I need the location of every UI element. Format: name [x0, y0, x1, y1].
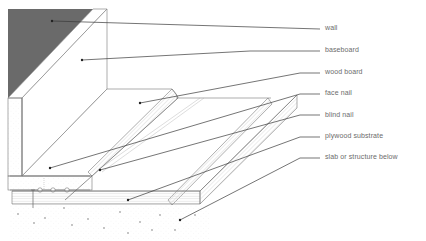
- label-wall: wall: [325, 24, 337, 32]
- board-profile: [8, 176, 92, 192]
- label-blind-nail: blind nail: [325, 111, 354, 119]
- label-face-nail: face nail: [325, 89, 352, 97]
- label-baseboard: baseboard: [325, 46, 359, 54]
- label-plywood-substrate: plywood substrate: [325, 132, 383, 140]
- slab-shape: [10, 205, 210, 241]
- label-slab: slab or structure below: [325, 153, 398, 161]
- floor-section-diagram: [0, 0, 426, 241]
- label-wood-board: wood board: [325, 68, 363, 76]
